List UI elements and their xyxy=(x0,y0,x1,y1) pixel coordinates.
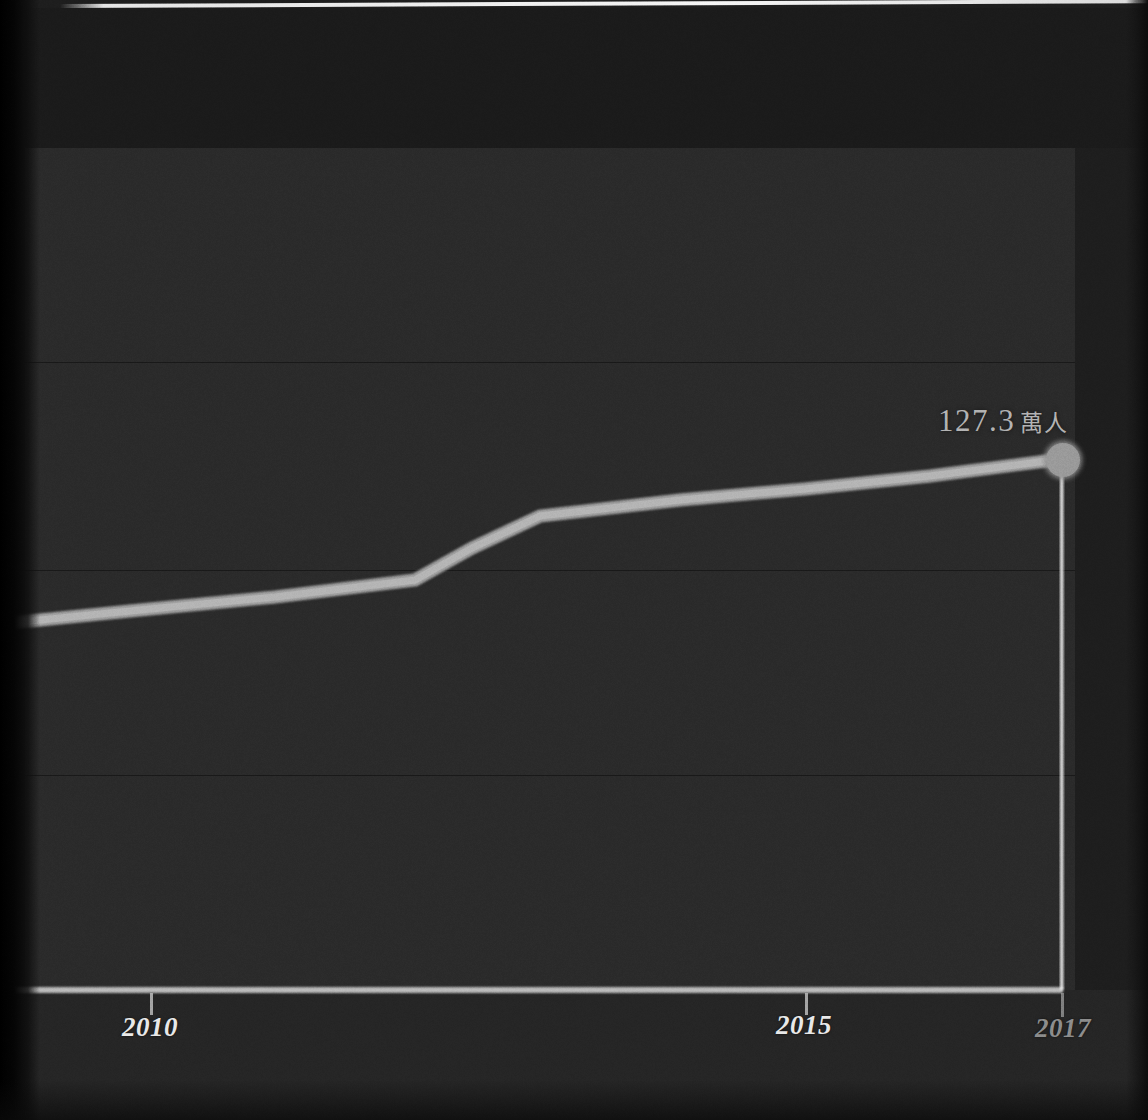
chart-screenshot: 127.3萬人 2010 2015 2017 xyxy=(0,0,1148,1120)
bottom-edge-vignette xyxy=(0,1080,1148,1120)
value-annotation-label: 127.3萬人 xyxy=(938,403,1068,439)
x-axis-label-2017: 2017 xyxy=(1035,1013,1091,1044)
annotation-drop-line xyxy=(1060,470,1064,990)
annotation-unit: 萬人 xyxy=(1020,410,1068,436)
data-point-marker-2017[interactable] xyxy=(1044,441,1082,479)
x-axis-label-2015: 2015 xyxy=(776,1010,832,1041)
annotation-value: 127.3 xyxy=(938,403,1015,438)
right-edge-vignette xyxy=(1126,0,1148,1120)
left-edge-vignette xyxy=(0,0,40,1120)
data-series-line xyxy=(0,459,1062,624)
chart-canvas xyxy=(0,0,1148,1120)
x-axis-label-2010: 2010 xyxy=(122,1012,178,1043)
